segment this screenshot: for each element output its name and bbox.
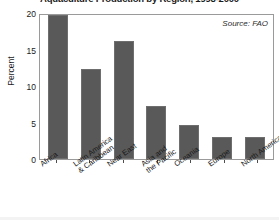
x-tick-mark [56, 160, 57, 163]
bar-series [40, 15, 273, 159]
y-tick-label: 10 [18, 82, 36, 92]
x-tick-mark [224, 160, 225, 163]
plot-area: Source: FAO [39, 14, 274, 160]
y-axis-title: Percent [6, 41, 16, 101]
x-tick-mark [123, 160, 124, 163]
y-tick-label: 20 [18, 9, 36, 19]
x-tick-mark [190, 160, 191, 163]
y-axis-ticks: 05101520 [18, 14, 36, 160]
y-tick-label: 0 [18, 155, 36, 165]
y-tick-label: 15 [18, 46, 36, 56]
page-edge [0, 217, 279, 220]
x-axis-labels: AfricaLatin America& CaribbeanNear EastA… [39, 160, 274, 220]
y-tick-label: 5 [18, 119, 36, 129]
x-tick-mark [257, 160, 258, 163]
chart-title: Aquaculture Production by Region, 1998-2… [0, 0, 279, 4]
bar-africa [48, 15, 68, 159]
chart-figure: Aquaculture Production by Region, 1998-2… [0, 0, 279, 220]
source-annotation: Source: FAO [222, 19, 268, 28]
